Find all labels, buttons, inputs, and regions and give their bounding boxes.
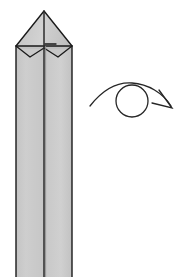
turn-over-rotate-arrow (90, 83, 172, 117)
rotation-arrow-curve (90, 83, 171, 106)
shaft-left-panel (16, 46, 44, 277)
rotation-circle-icon (116, 85, 148, 117)
origami-diagram-figure (0, 0, 183, 277)
origami-diagram-canvas (0, 0, 183, 277)
folded-paper-column (16, 11, 72, 277)
rotation-arrowhead-icon (152, 90, 172, 108)
shaft-right-panel (44, 46, 72, 277)
